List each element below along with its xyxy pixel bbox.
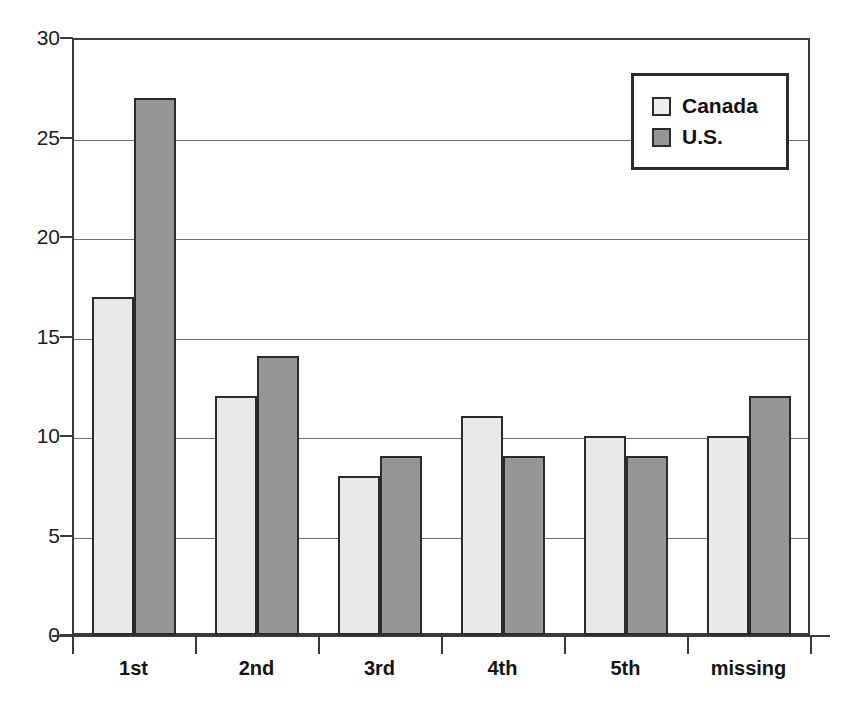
- y-axis: 051015202530: [0, 38, 60, 635]
- y-tick-label: 15: [37, 325, 60, 349]
- gridline: [74, 438, 808, 439]
- x-tick-label: 5th: [611, 657, 641, 680]
- x-tick-label: 4th: [488, 657, 518, 680]
- gridline: [74, 339, 808, 340]
- y-tick-mark: [60, 137, 73, 139]
- y-tick-mark: [60, 336, 73, 338]
- x-tick-mark: [195, 635, 197, 654]
- x-tick-mark: [687, 635, 689, 654]
- y-tick-label: 30: [37, 26, 60, 50]
- x-tick-label: 3rd: [364, 657, 395, 680]
- legend: CanadaU.S.: [631, 73, 789, 170]
- x-tick-label: 1st: [119, 657, 148, 680]
- x-axis-labels: 1st2nd3rd4th5thmissing: [72, 657, 810, 697]
- y-tick-mark: [60, 435, 73, 437]
- legend-item: Canada: [652, 94, 786, 118]
- x-tick-mark: [810, 635, 812, 654]
- x-tick-label: 2nd: [239, 657, 275, 680]
- y-tick-mark: [60, 535, 73, 537]
- legend-swatch-icon: [652, 97, 671, 116]
- legend-label: Canada: [682, 94, 758, 118]
- y-tick-label: 20: [37, 225, 60, 249]
- gridline: [74, 538, 808, 539]
- x-tick-mark: [318, 635, 320, 654]
- gridline: [74, 239, 808, 240]
- legend-label: U.S.: [682, 125, 723, 149]
- y-tick-mark: [60, 37, 73, 39]
- legend-swatch-icon: [652, 128, 671, 147]
- y-tick-label: 5: [48, 524, 60, 548]
- y-tick-mark: [60, 236, 73, 238]
- x-tick-mark: [564, 635, 566, 654]
- x-tick-mark: [72, 635, 74, 654]
- x-tick-label: missing: [711, 657, 787, 680]
- y-tick-label: 10: [37, 424, 60, 448]
- y-tick-label: 25: [37, 126, 60, 150]
- x-tick-mark: [441, 635, 443, 654]
- bar-chart: 051015202530 1st2nd3rd4th5thmissing Cana…: [0, 0, 853, 714]
- legend-item: U.S.: [652, 125, 786, 149]
